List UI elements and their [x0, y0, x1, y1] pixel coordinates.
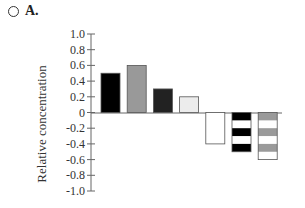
y-tick-label: -0.8	[66, 168, 85, 182]
y-tick-label: -0.6	[66, 153, 85, 167]
y-tick-label: -1.0	[66, 184, 85, 198]
bar-2	[127, 65, 146, 112]
bar-chart: 1.00.80.60.40.20-0.2-0.4-0.6-0.8-1.0 Rel…	[0, 0, 305, 208]
bar-7	[258, 113, 277, 160]
y-tick-label: -0.4	[66, 137, 85, 151]
y-tick-label: 0	[79, 106, 85, 120]
bar-4	[180, 97, 199, 113]
bar-3	[153, 89, 172, 113]
bar-1	[101, 73, 120, 112]
y-axis-label: Relative concentration	[34, 65, 49, 183]
y-tick-label: 1.0	[70, 27, 85, 41]
y-tick-label: 0.4	[70, 74, 85, 88]
y-tick-label: 0.6	[70, 58, 85, 72]
bar-5	[206, 113, 225, 144]
y-tick-label: 0.8	[70, 43, 85, 57]
bars	[101, 65, 277, 159]
y-tick-label: 0.2	[70, 90, 85, 104]
bar-6	[232, 113, 251, 152]
y-tick-label: -0.2	[66, 121, 85, 135]
